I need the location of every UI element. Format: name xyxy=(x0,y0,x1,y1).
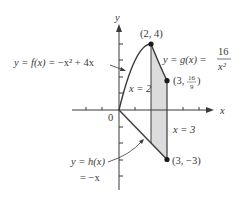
x-axis xyxy=(72,107,214,113)
point-g-at-3 xyxy=(164,78,169,83)
point-peak-label: (2, 4) xyxy=(140,28,163,40)
point-h-at-3-label: (3, −3) xyxy=(172,155,201,167)
f-label: y = f(x) = −x² + 4x xyxy=(13,57,95,69)
point-peak xyxy=(148,41,153,46)
x-equals-3-label: x = 3 xyxy=(172,124,195,135)
h-leader-arrow-icon xyxy=(108,141,142,162)
x-equals-2-label: x = 2 xyxy=(128,83,152,94)
origin-label: 0 xyxy=(108,112,113,123)
h-label-line1: y = h(x) xyxy=(70,156,105,168)
point-g-at-3-num: 16 xyxy=(188,74,196,82)
g-denominator: x² xyxy=(217,61,227,72)
point-g-at-3-close: ) xyxy=(197,75,201,87)
g-label: y = g(x) = xyxy=(162,54,207,66)
g-numerator: 16 xyxy=(218,46,229,57)
point-g-at-3-label: (3, xyxy=(173,75,184,87)
point-g-at-3-den: 9 xyxy=(190,83,194,91)
x-axis-arrow-icon xyxy=(206,107,214,113)
curve-f xyxy=(119,44,151,110)
y-axis-arrow-icon xyxy=(116,24,122,32)
region-diagram: y x 0 y = f(x) = −x² + 4x y = g(x) = 16 … xyxy=(0,0,241,199)
point-h-at-3 xyxy=(164,157,169,162)
h-label-line2: = −x xyxy=(80,172,100,183)
x-axis-label: x xyxy=(219,105,225,116)
y-axis-label: y xyxy=(114,12,120,23)
